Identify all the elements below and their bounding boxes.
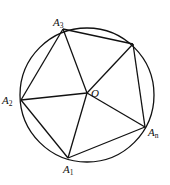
spoke-o-a2 bbox=[21, 93, 87, 100]
spoke-o-a3 bbox=[63, 29, 87, 93]
vertex-label-a3: A3 bbox=[52, 16, 64, 30]
vertex-label-an: An bbox=[147, 126, 159, 140]
spoke-o-a1 bbox=[68, 93, 87, 158]
vertex-label-a2: A2 bbox=[1, 94, 13, 108]
polygon-edge-a1-a2 bbox=[21, 100, 68, 158]
center-label: O bbox=[91, 87, 99, 99]
geometry-diagram: O A3 A2 A1 An bbox=[0, 0, 170, 185]
polygon-edge-a4-an bbox=[133, 44, 145, 127]
polygon-edge-a3-a4 bbox=[63, 29, 133, 44]
spoke-o-a4 bbox=[87, 44, 133, 93]
vertex-label-a1: A1 bbox=[62, 163, 74, 177]
